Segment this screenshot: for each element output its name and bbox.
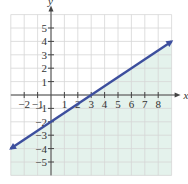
- y-axis-label: y: [47, 0, 53, 7]
- x-tick-label: 7: [142, 98, 148, 110]
- x-tick-label: 8: [155, 98, 161, 110]
- x-axis-arrow-icon: [175, 93, 181, 98]
- y-tick-label: 2: [42, 62, 48, 74]
- x-axis-label: x: [183, 89, 188, 101]
- y-tick-label: 3: [42, 49, 48, 61]
- x-tick-label: 5: [115, 98, 121, 110]
- y-tick-label: 1: [42, 76, 48, 88]
- y-tick-label: −5: [35, 156, 47, 168]
- y-tick-label: −4: [35, 143, 47, 155]
- x-tick-label: 4: [102, 98, 108, 110]
- y-tick-label: −1: [35, 102, 47, 114]
- y-tick-label: 4: [42, 35, 48, 47]
- x-tick-label: 6: [129, 98, 135, 110]
- x-tick-label: −2: [18, 98, 30, 110]
- x-tick-label: 1: [62, 98, 68, 110]
- inequality-graph: −2−11234567854321−1−2−3−4−5xy: [0, 0, 188, 184]
- x-tick-label: 3: [88, 98, 94, 110]
- y-tick-label: 5: [42, 22, 48, 34]
